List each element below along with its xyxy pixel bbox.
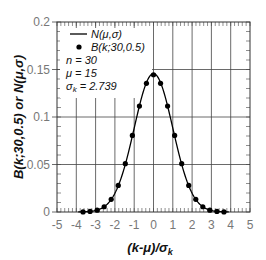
x-axis-title: (k-μ)/σk <box>127 240 173 257</box>
x-tick-label: 3 <box>208 218 215 232</box>
binomial-point <box>137 103 142 108</box>
binomial-point <box>165 103 170 108</box>
legend-line-label: N(μ,σ) <box>91 28 122 40</box>
y-tick-labels: 00.050.10.150.2 <box>27 15 51 219</box>
y-tick-label: 0.15 <box>27 63 51 77</box>
x-tick-label: -5 <box>52 218 63 232</box>
x-tick-label: 1 <box>169 218 176 232</box>
x-tick-labels: -5-4-3-2-1012345 <box>52 218 254 232</box>
annotation-sigma-value: = 2.739 <box>77 80 117 92</box>
binomial-point <box>214 209 219 214</box>
binomial-point <box>221 209 226 214</box>
binomial-point <box>102 204 107 209</box>
x-tick-label: 4 <box>227 218 234 232</box>
annotation-n: n = 30 <box>66 54 98 66</box>
binomial-point <box>158 81 163 86</box>
binomial-point <box>123 161 128 166</box>
y-tick-label: 0.1 <box>33 110 50 124</box>
x-tick-label: -2 <box>110 218 121 232</box>
chart: -5-4-3-2-1012345 00.050.10.150.2 N(μ,σ) … <box>0 0 266 260</box>
legend-dot-marker <box>76 44 81 49</box>
x-tick-label: 2 <box>189 218 196 232</box>
y-axis-title: B(k;30,0.5) or N(μ,σ) <box>11 55 26 179</box>
binomial-point <box>151 72 156 77</box>
binomial-point <box>200 204 205 209</box>
binomial-point <box>207 208 212 213</box>
binomial-point <box>80 209 85 214</box>
x-tick-label: 0 <box>150 218 157 232</box>
binomial-point <box>144 81 149 86</box>
x-tick-label: -3 <box>90 218 101 232</box>
legend-dot-label: B(k;30,0.5) <box>91 41 145 53</box>
binomial-point <box>179 161 184 166</box>
x-tick-label: 5 <box>247 218 254 232</box>
binomial-point <box>130 133 135 138</box>
y-tick-label: 0.2 <box>33 15 50 29</box>
x-tick-label: -1 <box>129 218 140 232</box>
binomial-point <box>109 197 114 202</box>
binomial-point <box>87 209 92 214</box>
x-axis-title-main: (k-μ)/σ <box>127 240 169 255</box>
annotation-mu: μ = 15 <box>65 67 98 79</box>
binomial-point <box>116 183 121 188</box>
x-axis-title-sub: k <box>168 247 174 257</box>
binomial-point <box>193 197 198 202</box>
y-tick-label: 0 <box>43 205 50 219</box>
x-tick-label: -4 <box>71 218 82 232</box>
binomial-point <box>95 208 100 213</box>
y-tick-label: 0.05 <box>27 158 51 172</box>
binomial-point <box>172 133 177 138</box>
binomial-point <box>186 183 191 188</box>
